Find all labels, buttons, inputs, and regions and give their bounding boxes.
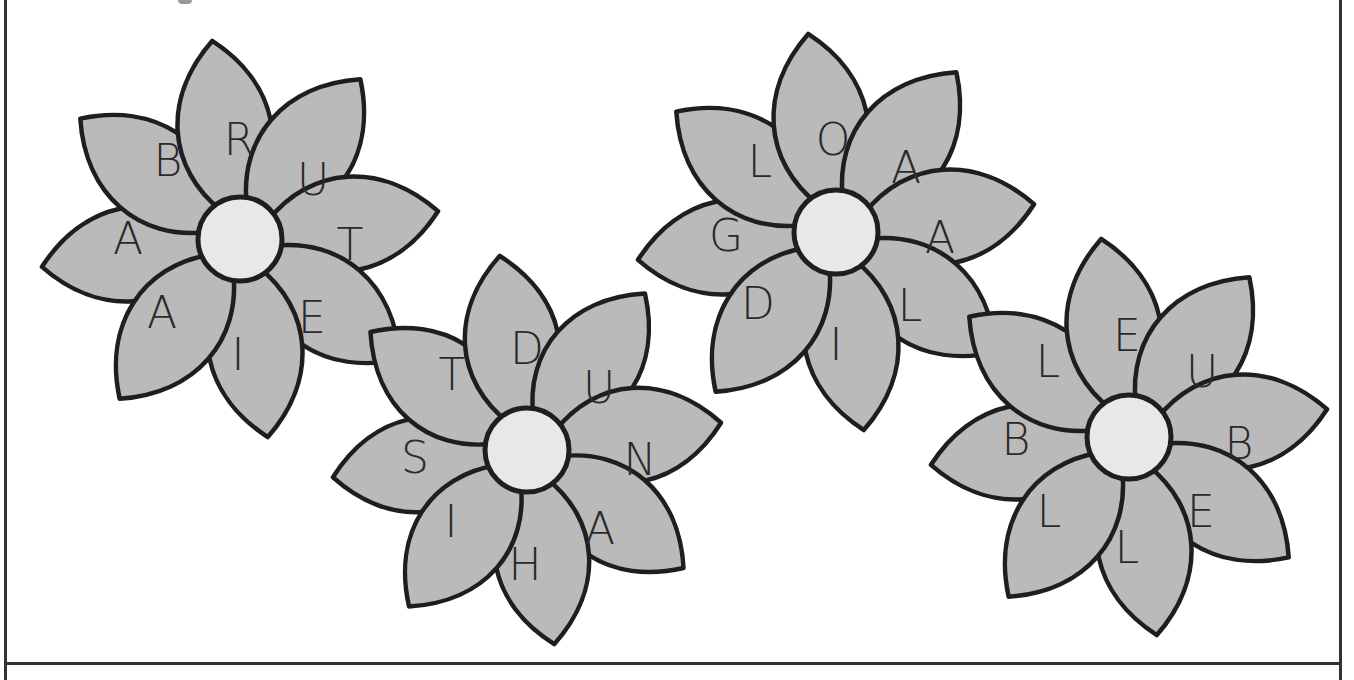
petal-letter: L [748,136,773,187]
petal-letter: R [224,114,255,165]
petal-letter: O [816,114,851,165]
petal-letter: A [113,213,143,264]
petal-letter: T [439,349,466,400]
flower-3: O A A L I D G L [631,27,1040,436]
petal-letter: I [445,496,458,547]
petal-letter: I [830,319,843,370]
petal-letter: E [1187,486,1215,537]
petal-letter: U [583,362,615,413]
flower-center [794,190,878,274]
petal-letter: G [709,210,743,261]
petal-letter: L [1037,486,1062,537]
petal-letter: H [508,539,541,590]
petal-letter: A [891,142,921,193]
petal-letter: B [154,135,183,186]
petal-letter: U [1186,346,1218,397]
flowers-canvas: R U T E I A A B D U N A H I S T [0,0,1354,680]
petal-letter: S [401,432,429,483]
petal-letter: L [1036,336,1061,387]
flower-center [1087,395,1171,479]
petal-letter: B [1225,418,1254,469]
petal-letter: D [741,278,775,329]
flower-4: E U B E L L B L [924,232,1333,641]
petal-letter: T [337,219,364,270]
petal-letter: A [147,287,177,338]
petal-letter: E [298,292,326,343]
petal-letter: U [297,154,329,205]
flower-center [485,408,569,492]
petal-letter: D [510,323,544,374]
petal-letter: N [624,434,657,485]
flower-center [198,197,282,281]
petal-letter: I [232,329,245,380]
petal-letter: A [585,503,615,554]
petal-letter: A [925,212,955,263]
petal-letter: B [1002,414,1031,465]
petal-letter: L [1115,522,1140,573]
petal-letter: E [1113,310,1141,361]
petal-letter: L [898,280,923,331]
